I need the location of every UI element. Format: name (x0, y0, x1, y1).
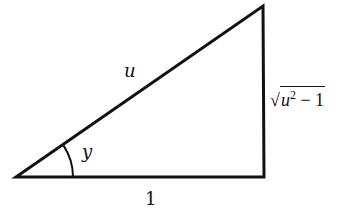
radicand-base: u (281, 90, 290, 110)
radical-sign: √ (270, 90, 280, 110)
radicand-rest: − 1 (296, 90, 324, 110)
triangle (16, 6, 264, 177)
angle-label: y (82, 143, 92, 161)
opposite-label: √u2 − 1 (270, 86, 325, 111)
adjacent-label: 1 (145, 190, 156, 208)
angle-arc (64, 146, 73, 177)
hypotenuse-label: u (124, 62, 136, 80)
